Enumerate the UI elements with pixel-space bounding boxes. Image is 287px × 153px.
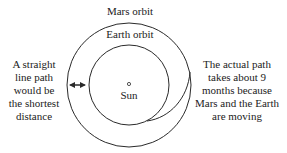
sun-icon xyxy=(127,82,130,85)
straight-path-note-line: line path xyxy=(2,71,66,84)
sun-label: Sun xyxy=(116,89,142,102)
actual-path-note-line: Mars and the Earth xyxy=(190,97,284,110)
mars-orbit-label: Mars orbit xyxy=(105,5,155,18)
earth-orbit-circle xyxy=(89,45,169,125)
straight-path-note-line: distance xyxy=(2,110,66,123)
actual-path-note: The actual path takes about 9 months bec… xyxy=(190,58,284,123)
actual-path-note-line: takes about 9 xyxy=(190,71,284,84)
actual-path-note-line: The actual path xyxy=(190,58,284,71)
straight-path-note-line: the shortest xyxy=(2,97,66,110)
straight-path-note-line: would be xyxy=(2,84,66,97)
straight-path-note-line: A straight xyxy=(2,58,66,71)
mars-orbit-circle xyxy=(67,23,191,147)
actual-path-note-line: are moving xyxy=(190,110,284,123)
straight-path-note: A straight line path would be the shorte… xyxy=(2,58,66,123)
actual-path-note-line: months because xyxy=(190,84,284,97)
orbit-diagram: Mars orbit Earth orbit Sun A straight li… xyxy=(0,0,287,153)
earth-orbit-label: Earth orbit xyxy=(103,28,157,41)
